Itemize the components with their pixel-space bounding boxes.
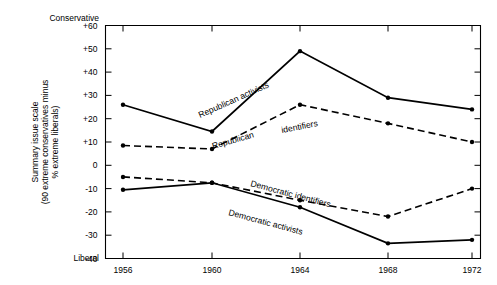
data-point-marker <box>298 49 302 53</box>
x-axis-year-label: 1956 <box>114 265 133 275</box>
label-democratic-activists: Democratic activists <box>227 207 303 236</box>
x-axis-year-label: 1960 <box>203 265 222 275</box>
y-tick-label: -30 <box>85 230 98 240</box>
axis-top-label: Conservative <box>49 13 99 23</box>
data-point-marker <box>210 129 214 133</box>
x-axis-year-label: 1964 <box>291 265 310 275</box>
y-tick-label: -10 <box>85 184 98 194</box>
x-axis-ticks <box>123 26 472 259</box>
data-point-marker <box>121 103 125 107</box>
y-axis-tick-labels: +60+50+40+30+20+100-10-20-30-40 <box>83 21 98 264</box>
data-point-marker <box>470 238 474 242</box>
x-axis-year-labels: 19561960196419681972 <box>114 265 482 275</box>
data-point-marker <box>386 121 390 125</box>
data-point-marker <box>121 175 125 179</box>
y-axis-ticks-right <box>475 49 481 235</box>
label-republican: Republican <box>211 129 255 151</box>
data-point-marker <box>386 96 390 100</box>
data-point-marker <box>298 205 302 209</box>
y-tick-label: +10 <box>83 137 98 147</box>
data-point-marker <box>386 214 390 218</box>
label-identifiers: identifiers <box>280 118 318 135</box>
x-axis-year-label: 1972 <box>463 265 482 275</box>
data-point-marker <box>386 241 390 245</box>
chart-figure: +60+50+40+30+20+100-10-20-30-40 19561960… <box>0 0 497 285</box>
axis-bottom-label: Liberal <box>73 253 99 263</box>
y-tick-label: +40 <box>83 67 98 77</box>
series-line-republican-activists <box>123 51 472 131</box>
data-point-marker <box>470 186 474 190</box>
series-group <box>123 51 472 243</box>
y-axis-title: Summary issue scale (90 extreme conserva… <box>30 80 60 205</box>
y-axis-title-line2: (90 extreme conservatives minus <box>40 80 50 205</box>
data-point-marker <box>470 140 474 144</box>
data-point-marker <box>210 181 214 185</box>
label-republican-activists: Republican activists <box>197 80 270 120</box>
y-axis-title-line1: Summary issue scale <box>30 101 40 182</box>
data-point-marker <box>298 103 302 107</box>
data-point-marker <box>470 107 474 111</box>
y-axis-ticks <box>106 49 112 235</box>
y-tick-label: +50 <box>83 44 98 54</box>
y-tick-label: +20 <box>83 114 98 124</box>
data-point-marker <box>121 143 125 147</box>
y-tick-label: -20 <box>85 207 98 217</box>
data-point-marker <box>121 188 125 192</box>
y-tick-label: +30 <box>83 90 98 100</box>
series-inline-labels: Republican activists Republican identifi… <box>197 80 332 237</box>
y-tick-label: 0 <box>93 160 98 170</box>
x-axis-year-label: 1968 <box>379 265 398 275</box>
y-axis-title-line3: % extreme liberals) <box>50 105 60 178</box>
line-chart-svg: +60+50+40+30+20+100-10-20-30-40 19561960… <box>0 0 497 285</box>
